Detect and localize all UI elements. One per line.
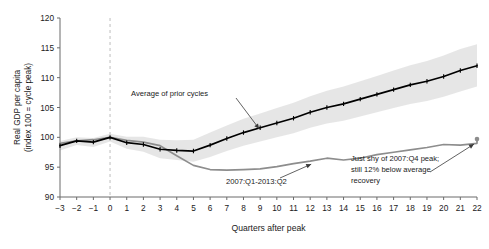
x-tick-label: 2 [141,203,146,213]
annotation-endpoint-line1: Just shy of 2007:Q4 peak; [351,154,439,163]
x-tick-label: 6 [208,203,213,213]
x-tick-label: 4 [174,203,179,213]
x-tick-label: 14 [339,203,349,213]
x-tick-label: 0 [108,203,113,213]
y-tick-label: 120 [40,13,54,23]
x-tick-label: 17 [389,203,399,213]
band-area [60,44,477,162]
shaded-range-band [60,44,477,162]
y-tick-group: 9095100105110115120 [40,13,60,202]
gdp-recovery-line-chart: 9095100105110115120 −3−2−101234567891011… [0,0,489,249]
y-tick-label: 115 [41,43,55,53]
x-tick-label: 13 [322,203,332,213]
x-tick-label: 15 [356,203,366,213]
y-axis: 9095100105110115120 [40,13,60,202]
y-axis-title: Real GDP per capita (index 100 = cycle p… [13,63,33,152]
y-tick-label: 95 [45,162,55,172]
annotation-endpoint-line2: still 12% below average [351,165,431,174]
chart-container: 9095100105110115120 −3−2−101234567891011… [0,0,489,249]
x-tick-label: 16 [372,203,382,213]
x-tick-label: 8 [241,203,246,213]
x-axis-title: Quarters after peak [231,223,306,233]
y-tick-label: 110 [41,73,55,83]
x-tick-label: 3 [158,203,163,213]
y-axis-title-line1: Real GDP per capita [13,70,22,145]
x-tick-label: 5 [191,203,196,213]
x-tick-label: 11 [289,203,298,213]
x-tick-label: 9 [258,203,263,213]
y-tick-label: 90 [45,192,55,202]
x-tick-label: −2 [72,203,82,213]
x-tick-label: 12 [306,203,316,213]
x-tick-label: −1 [89,203,99,213]
x-tick-group: −3−2−10123456789101112131415161718192021… [55,197,482,213]
x-tick-label: 21 [456,203,466,213]
x-axis: −3−2−10123456789101112131415161718192021… [55,197,482,213]
annotation-endpoint-line3: recovery [351,176,380,185]
x-tick-label: 19 [422,203,432,213]
y-axis-title-line2: (index 100 = cycle peak) [24,63,33,152]
annotation-endpoint-arrowhead [469,144,474,149]
x-tick-label: 1 [124,203,129,213]
annotation-average-label: Average of prior cycles [131,89,208,98]
y-tick-label: 100 [40,132,54,142]
x-tick-label: 20 [439,203,449,213]
current-series-endpoint-dot [475,137,480,142]
x-tick-label: 22 [472,203,482,213]
x-tick-label: −3 [55,203,65,213]
x-tick-label: 7 [224,203,229,213]
x-tick-label: 18 [406,203,416,213]
annotation-current-label: 2007:Q1-2013:Q2 [226,177,287,186]
annotation-current-leader-line [280,164,311,178]
x-tick-label: 10 [272,203,282,213]
y-tick-label: 105 [40,103,54,113]
